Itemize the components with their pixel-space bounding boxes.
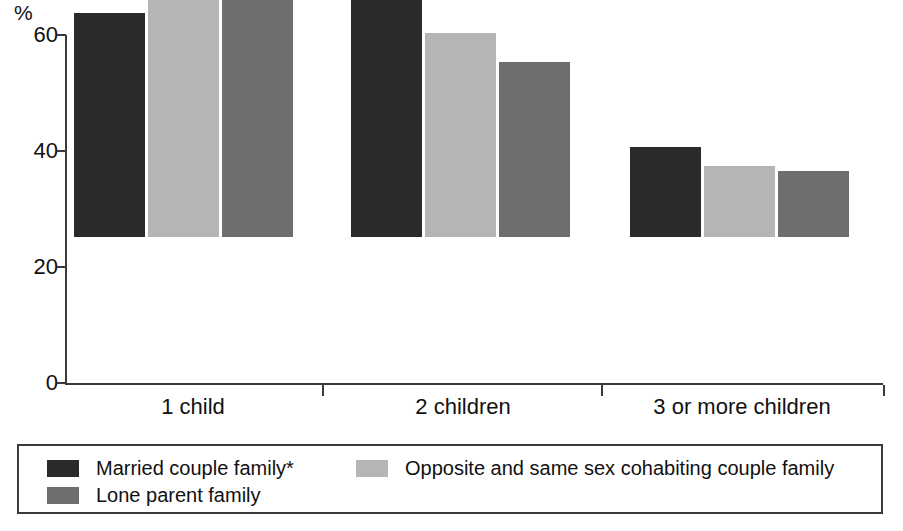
- legend-swatch-icon: [356, 460, 388, 477]
- legend-entry-lone-parent-family: Lone parent family: [47, 484, 261, 506]
- bar: [222, 0, 293, 237]
- bar: [351, 0, 422, 237]
- plot-area: [0, 0, 903, 385]
- legend-entry-cohabiting-couple-family: Opposite and same sex cohabiting couple …: [356, 457, 834, 479]
- x-axis-category-label: 2 children: [313, 392, 613, 422]
- legend: Married couple family* Opposite and same…: [17, 444, 883, 514]
- bar: [778, 171, 849, 237]
- legend-swatch-icon: [47, 460, 79, 477]
- legend-entry-label: Lone parent family: [96, 484, 261, 506]
- legend-swatch-icon: [47, 487, 79, 504]
- x-axis-category-label: 3 or more children: [592, 392, 892, 422]
- legend-entry-married-couple-family: Married couple family*: [47, 457, 294, 479]
- bar: [630, 147, 701, 237]
- bar: [148, 0, 219, 237]
- bar-chart: % 0204060 1 child2 children3 or more chi…: [0, 0, 903, 531]
- bar: [425, 33, 496, 237]
- bar: [704, 166, 775, 237]
- bar: [499, 62, 570, 237]
- bar: [74, 13, 145, 237]
- legend-entry-label: Married couple family*: [96, 457, 294, 479]
- legend-entry-label: Opposite and same sex cohabiting couple …: [405, 457, 834, 479]
- x-axis-category-label: 1 child: [43, 392, 343, 422]
